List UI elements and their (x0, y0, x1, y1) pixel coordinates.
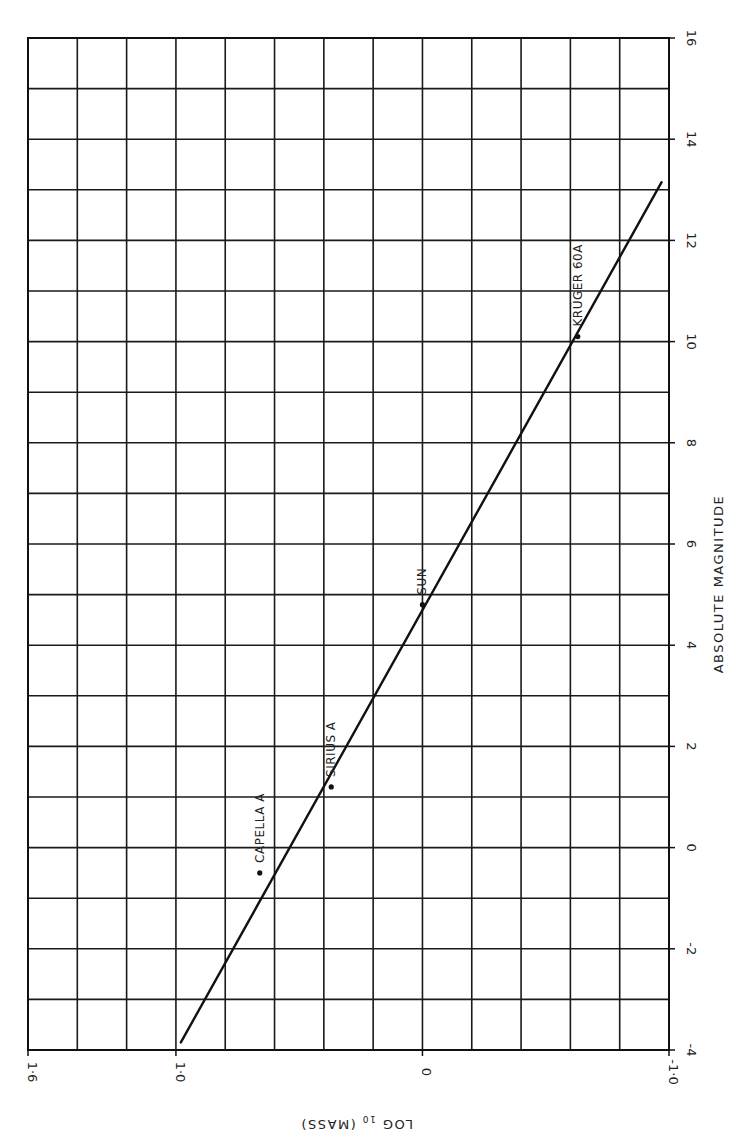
y-tick-label: 0 (419, 1068, 434, 1076)
x-tick-label: 12 (684, 232, 699, 249)
point-label: KRÜGER 60A (569, 244, 585, 327)
y-tick-label: -1·0 (666, 1059, 681, 1084)
y-axis-ticks-log-mass: 1·61·00-1·0 (25, 1050, 681, 1085)
data-point (257, 870, 262, 875)
fit-line (181, 182, 662, 1042)
svg-text:LOG 10 (MASS): LOG 10 (MASS) (300, 1114, 413, 1132)
x-tick-label: 6 (684, 540, 699, 548)
x-tick-label: 10 (684, 333, 699, 350)
y-tick-label: 1·0 (173, 1062, 188, 1083)
x-tick-label: 16 (684, 30, 699, 47)
x-tick-label: -2 (684, 942, 699, 955)
point-label: SUN (415, 568, 429, 595)
data-points: CAPELLA ASIRIUS ASUNKRÜGER 60A (253, 244, 585, 876)
y-tick-label: 1·6 (25, 1062, 40, 1083)
grid-lines (28, 38, 669, 1050)
x-tick-label: -4 (684, 1044, 699, 1057)
data-point (575, 334, 580, 339)
x-tick-label: 2 (684, 742, 699, 750)
x-axis-ticks-absolute-magnitude: -4-20246810121416 (669, 30, 699, 1057)
data-point (420, 602, 425, 607)
mass-luminosity-chart: -4-20246810121416 1·61·00-1·0 CAPELLA AS… (0, 0, 749, 1145)
data-point (329, 784, 334, 789)
x-axis-title: ABSOLUTE MAGNITUDE (711, 495, 726, 674)
y-axis-title: LOG 10 (MASS) (300, 1114, 413, 1132)
x-tick-label: 4 (684, 641, 699, 649)
x-tick-label: 0 (684, 843, 699, 851)
x-tick-label: 8 (684, 439, 699, 447)
point-label: CAPELLA A (253, 793, 267, 863)
x-tick-label: 14 (684, 131, 699, 148)
point-label: SIRIUS A (324, 721, 338, 777)
